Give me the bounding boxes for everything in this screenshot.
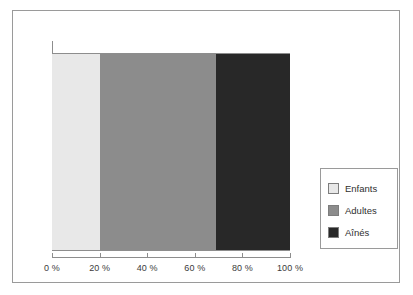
- x-axis-tick: [290, 253, 291, 258]
- y-axis-stub: [52, 41, 53, 53]
- x-axis-tick-label: 0 %: [44, 263, 60, 274]
- legend-swatch-aines: [328, 227, 339, 238]
- legend-label: Aînés: [345, 227, 369, 238]
- x-axis-tick-label: 20 %: [89, 263, 110, 274]
- legend-item: Aînés: [328, 222, 397, 243]
- plot-area: [52, 53, 290, 251]
- x-axis-tick-label: 100 %: [277, 263, 303, 274]
- x-axis-tick: [242, 253, 243, 258]
- legend-label: Adultes: [345, 205, 377, 216]
- legend-swatch-adultes: [328, 205, 339, 216]
- x-axis-tick: [52, 253, 53, 258]
- bar-segment-aines: [216, 54, 290, 250]
- legend-item: Enfants: [328, 178, 397, 199]
- legend-label: Enfants: [345, 183, 377, 194]
- x-axis-tick-label: 40 %: [137, 263, 158, 274]
- stacked-bar: [52, 53, 290, 251]
- legend-swatch-enfants: [328, 183, 339, 194]
- bar-segment-enfants: [52, 54, 100, 250]
- bar-segment-adultes: [100, 54, 217, 250]
- legend-item: Adultes: [328, 200, 397, 221]
- figure-frame: 0 %20 %40 %60 %80 %100 % Enfants Adultes…: [12, 10, 400, 283]
- x-axis-tick: [147, 253, 148, 258]
- x-axis-line: [52, 257, 291, 258]
- x-axis-tick-label: 60 %: [184, 263, 205, 274]
- x-axis-tick: [195, 253, 196, 258]
- x-axis-tick-label: 80 %: [232, 263, 253, 274]
- x-axis-tick: [100, 253, 101, 258]
- chart-legend: Enfants Adultes Aînés: [320, 168, 398, 249]
